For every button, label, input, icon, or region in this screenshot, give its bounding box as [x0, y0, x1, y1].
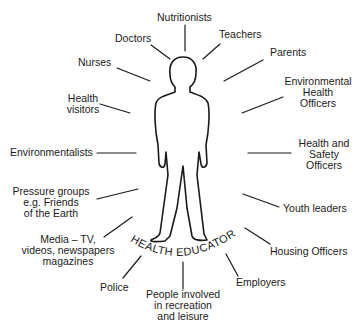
- label-employers: Employers: [236, 277, 286, 288]
- label-environmentalists: Environmentalists: [10, 147, 93, 158]
- label-parents: Parents: [270, 47, 306, 58]
- label-doctors: Doctors: [115, 33, 151, 44]
- label-nutritionists: Nutritionists: [157, 12, 212, 23]
- label-pressure-groups: Pressure groups e.g. Friends of the Eart…: [6, 186, 96, 219]
- label-housing-officers: Housing Officers: [270, 246, 347, 257]
- label-youth-leaders: Youth leaders: [283, 203, 347, 214]
- label-health-visitors: Health visitors: [58, 93, 108, 115]
- label-teachers: Teachers: [219, 29, 262, 40]
- label-nurses: Nurses: [78, 57, 111, 68]
- label-environmental-health-officers: Environmental Health Officers: [280, 76, 356, 109]
- label-police: Police: [100, 282, 129, 293]
- label-people-recreation-leisure: People involved in recreation and leisur…: [143, 289, 223, 322]
- label-health-safety-officers: Health and Safety Officers: [294, 138, 354, 171]
- label-media: Media – TV, videos, newspapers magazines: [18, 234, 118, 267]
- person-outline-icon: [151, 57, 209, 242]
